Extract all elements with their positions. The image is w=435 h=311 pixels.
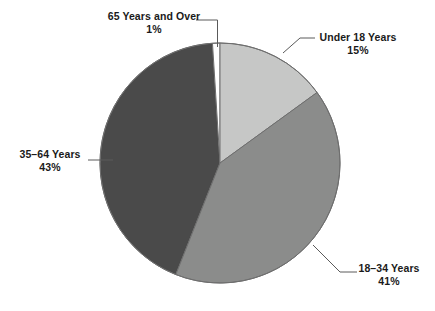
label-18-34-years-name: 18–34 Years [358, 262, 419, 274]
label-under-18-years-name: Under 18 Years [319, 31, 396, 43]
pie-slices [100, 43, 340, 283]
label-65-years-and-over-percent: 1% [98, 23, 210, 36]
label-35-64-years-percent: 43% [8, 161, 92, 174]
label-35-64-years-name: 35–64 Years [19, 148, 80, 160]
label-65-years-and-over-name: 65 Years and Over [108, 10, 201, 22]
label-under-18-years: Under 18 Years 15% [306, 31, 410, 57]
label-65-years-and-over: 65 Years and Over 1% [98, 10, 210, 36]
label-18-34-years-percent: 41% [350, 275, 428, 288]
label-18-34-years: 18–34 Years 41% [350, 262, 428, 288]
label-35-64-years: 35–64 Years 43% [8, 148, 92, 174]
pie-chart: 65 Years and Over 1% Under 18 Years 15% … [0, 0, 435, 311]
label-under-18-years-percent: 15% [306, 44, 410, 57]
